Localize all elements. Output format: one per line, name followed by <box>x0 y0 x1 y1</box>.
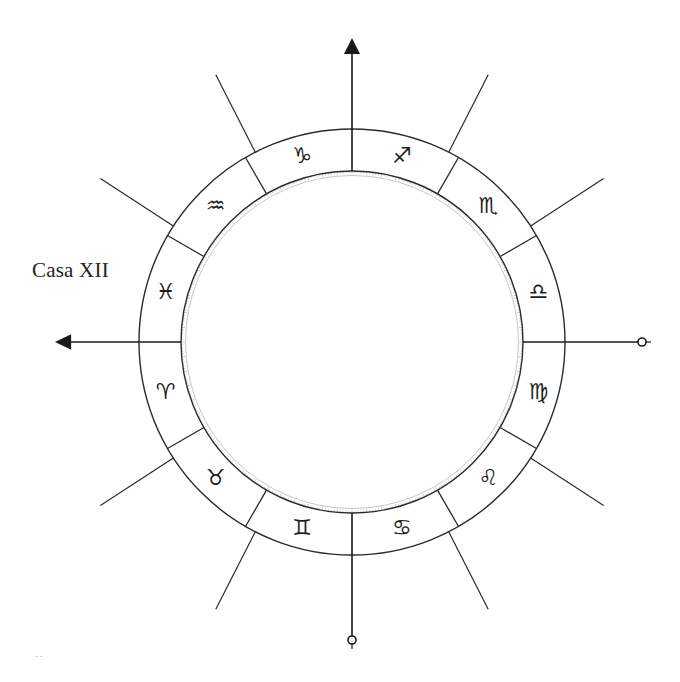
tick-mark <box>507 408 509 409</box>
tick-mark <box>269 490 270 491</box>
tick-mark <box>277 494 278 496</box>
tick-mark <box>242 470 244 472</box>
tick-mark <box>269 193 270 194</box>
tick-mark <box>497 257 500 259</box>
tick-mark <box>227 457 228 458</box>
tick-mark <box>517 371 520 372</box>
tick-mark <box>211 436 212 437</box>
tick-mark <box>475 457 476 458</box>
tick-mark <box>510 402 512 403</box>
tick-mark <box>225 455 226 456</box>
house-cusp-line <box>449 75 488 153</box>
tick-mark <box>190 289 192 290</box>
tick-mark <box>193 281 195 282</box>
tick-mark <box>212 244 214 246</box>
tick-mark <box>245 209 246 210</box>
tick-mark <box>283 496 284 498</box>
tick-mark <box>395 504 396 507</box>
tick-mark <box>200 419 202 420</box>
tick-mark <box>418 185 419 187</box>
house-cusp-line <box>100 179 173 226</box>
tick-mark <box>426 494 427 496</box>
taurus-icon: ♉︎ <box>201 463 231 493</box>
libra-icon: ♎︎ <box>523 277 553 307</box>
house-label-casa-xii: Casa XII <box>32 258 109 283</box>
tick-mark <box>489 441 490 442</box>
tick-mark <box>223 453 224 454</box>
tick-mark <box>204 257 207 259</box>
tick-mark <box>507 275 509 276</box>
tick-mark <box>211 247 212 248</box>
tick-mark <box>280 187 281 190</box>
tick-mark <box>280 494 281 497</box>
tick-mark <box>192 399 195 400</box>
tick-mark <box>195 408 197 409</box>
tick-mark <box>197 413 200 414</box>
tick-mark <box>500 424 501 425</box>
tick-mark <box>267 487 269 490</box>
tick-mark <box>238 215 239 216</box>
tick-mark <box>423 187 424 190</box>
tick-mark <box>214 441 215 442</box>
tick-mark <box>479 453 480 454</box>
tick-mark <box>201 421 203 422</box>
tick-mark <box>421 496 422 498</box>
tick-mark <box>487 444 488 445</box>
tick-mark <box>487 239 488 240</box>
sign-divider-line <box>246 158 267 194</box>
tick-mark <box>240 213 241 214</box>
tick-mark <box>229 224 230 225</box>
tick-mark <box>259 484 260 485</box>
tick-mark <box>194 405 196 406</box>
tick-mark <box>454 477 455 478</box>
tick-mark <box>404 180 405 182</box>
tick-mark <box>456 475 457 476</box>
tick-mark <box>204 426 207 428</box>
tick-mark <box>247 475 248 476</box>
scorpio-icon: ♏︎ <box>473 191 503 221</box>
tick-mark <box>470 460 472 462</box>
tick-mark <box>193 402 195 403</box>
tick-mark <box>395 177 396 180</box>
tick-mark <box>231 221 233 223</box>
tick-mark <box>184 371 187 372</box>
tick-mark <box>219 235 220 236</box>
cancer-icon: ♋︎ <box>387 513 417 543</box>
tick-mark <box>415 184 416 186</box>
tick-mark <box>480 232 482 234</box>
tick-mark <box>294 499 295 502</box>
tick-mark <box>497 429 498 430</box>
tick-mark <box>296 502 297 504</box>
tick-mark <box>242 211 244 213</box>
tick-mark <box>252 479 253 480</box>
arrowhead-icon <box>344 38 360 54</box>
tick-mark <box>221 450 223 452</box>
tick-mark <box>444 199 445 200</box>
tick-mark <box>467 217 468 218</box>
sign-divider-line <box>246 490 267 526</box>
tick-mark <box>264 196 265 197</box>
tick-mark <box>407 502 408 504</box>
tick-mark <box>510 281 512 282</box>
tick-mark <box>209 434 210 435</box>
tick-mark <box>184 312 187 313</box>
tick-mark <box>477 455 478 456</box>
tick-mark <box>275 190 276 192</box>
tick-mark <box>512 286 514 287</box>
tick-mark <box>234 219 235 220</box>
gemini-icon: ♊︎ <box>287 513 317 543</box>
tick-mark <box>203 424 204 425</box>
tick-mark <box>308 177 309 180</box>
tick-mark <box>494 434 495 435</box>
tick-mark <box>465 215 466 216</box>
tick-mark <box>448 202 450 204</box>
house-cusp-line <box>100 458 173 505</box>
tick-mark <box>308 504 309 507</box>
tick-mark <box>441 197 442 198</box>
tick-mark <box>190 394 192 395</box>
tick-mark <box>275 492 276 494</box>
arrowhead-icon <box>55 334 71 350</box>
tick-mark <box>509 399 512 400</box>
tick-mark <box>221 232 223 234</box>
tick-mark <box>225 228 226 229</box>
